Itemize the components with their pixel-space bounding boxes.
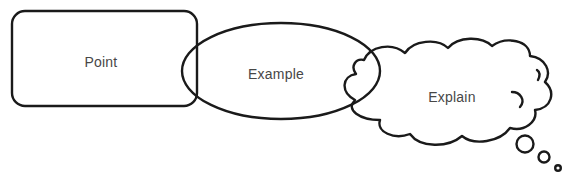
explain-cloud-lobe: [537, 70, 539, 80]
pee-diagram: [0, 0, 570, 180]
example-label: Example: [248, 66, 304, 82]
thought-bubble-small: [555, 165, 561, 171]
thought-bubble-medium: [539, 152, 550, 163]
explain-cloud-lobe: [512, 92, 522, 107]
explain-label: Explain: [428, 89, 475, 105]
point-label: Point: [85, 54, 118, 70]
thought-bubble-large: [517, 136, 534, 153]
